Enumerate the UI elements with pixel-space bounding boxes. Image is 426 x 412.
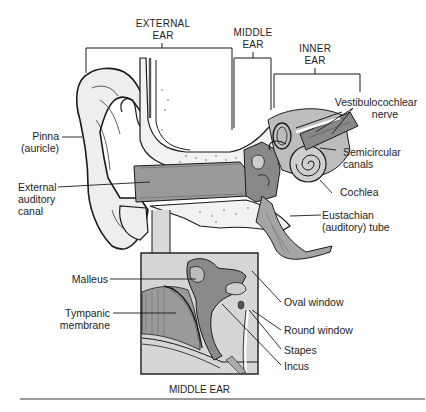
header-inner-line1: INNER [292, 43, 338, 55]
label-semicircular-line2: canals [343, 158, 401, 170]
label-eustachian-tube: Eustachian (auditory) tube [322, 209, 390, 233]
header-inner-ear: INNER EAR [292, 43, 338, 67]
label-malleus: Malleus [50, 273, 108, 285]
label-eustachian-line1: Eustachian [322, 209, 390, 221]
label-tympanic-line2: membrane [40, 319, 110, 331]
header-external-ear: EXTERNAL EAR [128, 18, 198, 42]
label-tympanic-line1: Tympanic [40, 307, 110, 319]
label-external-canal-line1: External [18, 181, 57, 193]
label-vestibulocochlear-line2: nerve [326, 108, 426, 120]
label-incus: Incus [284, 360, 309, 372]
label-external-canal-line3: canal [18, 205, 57, 217]
label-eustachian-line2: (auditory) tube [322, 221, 390, 233]
label-semicircular-line1: Semicircular [343, 146, 401, 158]
ear-illustration [0, 0, 426, 412]
label-stapes: Stapes [284, 344, 317, 356]
header-middle-ear: MIDDLE EAR [228, 27, 278, 51]
label-cochlea-line1: Cochlea [340, 186, 379, 198]
label-external-auditory-canal: External auditory canal [18, 181, 57, 217]
eustachian-tube [256, 196, 332, 259]
middle-ear-bracket [234, 52, 271, 128]
inset-middle-ear [141, 253, 258, 374]
header-external-line2: EAR [128, 30, 198, 42]
label-oval-window-line1: Oval window [284, 296, 344, 308]
label-incus-line1: Incus [284, 360, 309, 372]
label-pinna: Pinna (auricle) [4, 130, 59, 154]
header-middle-line1: MIDDLE [228, 27, 278, 39]
label-external-canal-line2: auditory [18, 193, 57, 205]
label-tympanic-membrane: Tympanic membrane [40, 307, 110, 331]
label-malleus-line1: Malleus [50, 273, 108, 285]
inset-caption: MIDDLE EAR [141, 384, 258, 396]
header-middle-line2: EAR [228, 39, 278, 51]
label-vestibulocochlear-nerve: Vestibulocochlear nerve [326, 96, 426, 120]
label-semicircular-canals: Semicircular canals [343, 146, 401, 170]
header-external-line1: EXTERNAL [128, 18, 198, 30]
external-auditory-canal [134, 162, 248, 202]
label-vestibulocochlear-line1: Vestibulocochlear [326, 96, 426, 108]
ear-anatomy-diagram: EXTERNAL EAR MIDDLE EAR INNER EAR Pinna … [0, 0, 426, 412]
label-pinna-line2: (auricle) [4, 142, 59, 154]
header-inner-line2: EAR [292, 55, 338, 67]
label-round-window: Round window [284, 324, 353, 336]
label-oval-window: Oval window [284, 296, 344, 308]
label-round-window-line1: Round window [284, 324, 353, 336]
label-pinna-line1: Pinna [4, 130, 59, 142]
label-cochlea: Cochlea [340, 186, 379, 198]
bottom-divider [20, 398, 425, 400]
label-stapes-line1: Stapes [284, 344, 317, 356]
